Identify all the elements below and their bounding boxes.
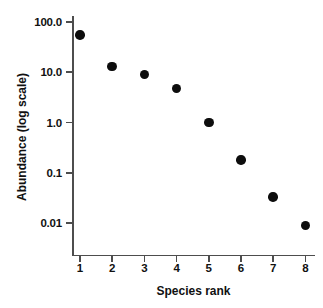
x-tick-label: 4 [173,262,179,274]
x-tick-label: 8 [302,262,308,274]
y-axis-title: Abundance (log scale) [15,57,29,217]
x-tick-label: 1 [77,262,83,274]
x-tick-label: 7 [270,262,276,274]
y-tick-label: 10.0 [40,66,62,78]
y-tick-label: 0.01 [40,217,62,229]
x-tick-label: 6 [238,262,244,274]
data-point [301,221,311,231]
y-tick-label: 100.0 [34,16,62,28]
y-tick-label: 1.0 [47,117,62,129]
y-tick-mark [66,71,72,73]
x-tick-label: 5 [206,262,212,274]
data-point [236,155,246,165]
y-tick-mark [66,172,72,174]
data-point [107,62,117,72]
y-tick-mark [66,21,72,23]
data-point [172,84,182,94]
y-tick-mark [66,222,72,224]
data-point [75,30,85,40]
y-axis-line [72,16,74,256]
x-tick-label: 2 [109,262,115,274]
y-tick-mark [66,122,72,124]
y-tick-label: 0.1 [47,167,62,179]
rank-abundance-chart: 100.010.01.00.10.01 12345678 Species ran… [0,0,323,308]
x-axis-line [72,255,315,257]
x-tick-label: 3 [141,262,147,274]
data-point [268,192,278,202]
data-point [204,118,214,128]
x-axis-title: Species rank [72,284,315,298]
data-point [140,70,150,80]
